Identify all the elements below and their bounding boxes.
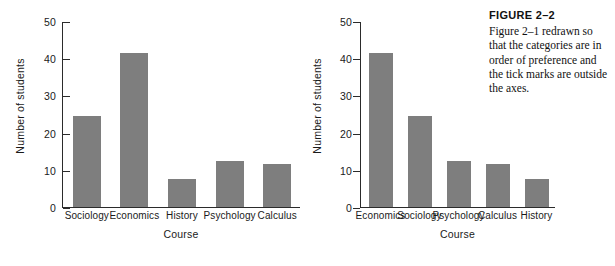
y-axis-title-left: Number of students	[14, 51, 26, 161]
y-tick-10	[63, 171, 70, 172]
x-tick-label-calculus: Calculus	[478, 210, 517, 221]
y-tick-label-20: 20	[44, 128, 56, 140]
y-tick-20	[353, 134, 360, 135]
y-tick-label-30: 30	[340, 90, 352, 102]
bar-history	[168, 179, 196, 207]
bar-sociology	[408, 116, 432, 207]
figure-caption-title: FIGURE 2–2	[489, 8, 611, 22]
bar-calculus	[486, 164, 510, 207]
y-tick-label-0: 0	[50, 202, 56, 214]
y-tick-label-30: 30	[44, 90, 56, 102]
y-tick-50	[353, 22, 360, 23]
y-tick-label-50: 50	[340, 16, 352, 28]
y-tick-label-20: 20	[340, 128, 352, 140]
y-tick-50	[63, 22, 70, 23]
y-axis-title-right: Number of students	[311, 51, 323, 161]
bar-calculus	[263, 164, 291, 207]
x-axis-title-left: Course	[62, 228, 300, 240]
x-tick-label-economics: Economics	[109, 210, 159, 221]
figure-caption-body: Figure 2–1 redrawn so that the categorie…	[489, 24, 611, 95]
y-tick-30	[353, 96, 360, 97]
x-axis-title-right: Course	[360, 228, 555, 240]
x-tick-label-calculus: Calculus	[258, 210, 297, 221]
bar-psychology	[447, 161, 471, 208]
x-tick-label-history: History	[166, 210, 198, 221]
figure-caption: FIGURE 2–2 Figure 2–1 redrawn so that th…	[489, 8, 611, 95]
plot-area-left: SociologyEconomicsHistoryPsychologyCalcu…	[62, 22, 300, 208]
bar-economics	[369, 53, 393, 207]
y-axis-tick-labels-right: 01020304050	[332, 22, 352, 208]
x-tick-label-history: History	[521, 210, 553, 221]
x-tick-label-psychology: Psychology	[432, 210, 484, 221]
y-tick-40	[353, 59, 360, 60]
figure-2-2-panel: Number of students 01020304050 Sociology…	[0, 0, 615, 266]
y-tick-0	[63, 208, 70, 209]
bar-economics	[120, 53, 148, 207]
x-axis-line-right	[360, 207, 555, 208]
y-tick-label-10: 10	[44, 165, 56, 177]
chart-figure-2-1: Number of students 01020304050 Sociology…	[0, 0, 310, 266]
y-tick-0	[353, 208, 360, 209]
chart-figure-2-2: Number of students 01020304050 Economics…	[300, 0, 500, 266]
y-tick-label-10: 10	[340, 165, 352, 177]
y-tick-30	[63, 96, 70, 97]
bar-sociology	[73, 116, 101, 207]
y-tick-label-40: 40	[340, 53, 352, 65]
y-axis-tick-labels-left: 01020304050	[34, 22, 56, 208]
bar-psychology	[216, 161, 244, 208]
x-axis-tick-labels-left: SociologyEconomicsHistoryPsychologyCalcu…	[63, 210, 300, 226]
x-axis-tick-labels-right: EconomicsSociologyPsychologyCalculusHist…	[361, 210, 555, 226]
x-axis-line-left	[62, 207, 300, 208]
y-tick-40	[63, 59, 70, 60]
y-tick-label-0: 0	[346, 202, 352, 214]
x-tick-label-sociology: Sociology	[65, 210, 109, 221]
bar-group-left	[63, 22, 300, 207]
y-tick-label-50: 50	[44, 16, 56, 28]
x-tick-label-psychology: Psychology	[204, 210, 256, 221]
bar-history	[525, 179, 549, 207]
y-tick-20	[63, 134, 70, 135]
y-tick-10	[353, 171, 360, 172]
y-tick-label-40: 40	[44, 53, 56, 65]
